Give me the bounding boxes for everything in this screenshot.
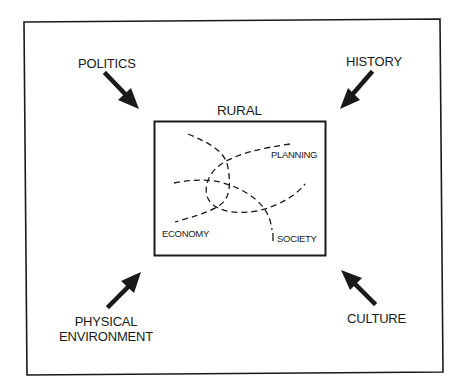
- factor-physical-line1: PHYSICAL: [56, 314, 156, 329]
- arrow-culture-icon: [341, 270, 374, 303]
- domain-society-label: SOCIETY: [277, 234, 317, 244]
- factor-culture-label: CULTURE: [347, 312, 406, 325]
- domain-planning-label: PLANNING: [271, 150, 317, 160]
- rural-title: RURAL: [217, 104, 262, 118]
- domain-economy-label: ECONOMY: [162, 229, 209, 239]
- arrow-politics-icon: [106, 74, 139, 109]
- factor-history-label: HISTORY: [346, 55, 402, 68]
- arrow-history-icon: [340, 73, 371, 109]
- arrow-physical-environment-icon: [109, 272, 141, 306]
- economy-curve: [175, 134, 229, 222]
- factor-physical-environment-label: PHYSICAL ENVIRONMENT: [56, 314, 156, 344]
- society-curve: [174, 180, 272, 230]
- factor-politics-label: POLITICS: [78, 57, 136, 70]
- factor-physical-line2: ENVIRONMENT: [56, 329, 156, 344]
